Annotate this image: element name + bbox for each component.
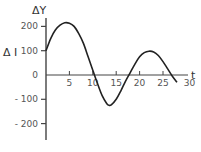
y-tick-label: - 100: [15, 94, 39, 104]
series-line: [46, 23, 177, 106]
axes: 2001000- 100- 20051015202530: [15, 18, 196, 140]
x-tick-label: 20: [134, 78, 146, 88]
x-axis-title: t: [191, 69, 196, 82]
y-tick-label: 200: [21, 21, 38, 31]
x-tick-label: 5: [67, 78, 73, 88]
side-label: Δ I: [3, 46, 17, 59]
y-axis-title: ΔY: [32, 4, 47, 17]
line-chart: 2001000- 100- 20051015202530 ΔY Δ I t: [0, 0, 201, 152]
y-tick-label: - 200: [15, 119, 39, 129]
y-tick-label: 100: [21, 46, 38, 56]
x-tick-label: 25: [157, 78, 168, 88]
x-tick-label: 15: [110, 78, 121, 88]
y-tick-label: 0: [32, 70, 38, 80]
